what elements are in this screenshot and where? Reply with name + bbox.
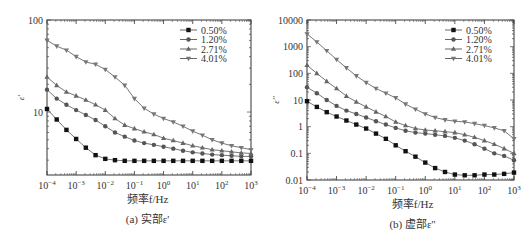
data-marker-square-icon	[113, 158, 117, 162]
data-marker-circle-icon	[413, 130, 417, 134]
legend: 0.50%1.20%2.71%4.01%	[180, 25, 227, 65]
data-marker-circle-icon	[132, 138, 136, 142]
y-axis-label: ε''	[271, 95, 281, 103]
data-marker-square-icon	[463, 173, 467, 177]
data-marker-square-icon	[423, 160, 427, 164]
data-marker-triangle-up-icon	[354, 99, 359, 104]
data-marker-triangle-up-icon	[334, 86, 339, 91]
data-marker-square-icon	[171, 159, 175, 163]
chart-real-permittivity: 10−410−310−210−110010110210310100ε'0.50%…	[0, 0, 265, 243]
data-marker-circle-icon	[74, 108, 78, 112]
data-marker-square-icon	[200, 159, 204, 163]
data-marker-square-icon	[443, 170, 447, 174]
data-marker-circle-icon	[239, 154, 243, 158]
legend: 0.50%1.20%2.71%4.01%	[445, 25, 492, 65]
data-marker-circle-icon	[482, 146, 486, 150]
data-marker-circle-icon	[210, 152, 214, 156]
data-marker-square-icon	[364, 126, 368, 130]
data-marker-circle-icon	[472, 142, 476, 146]
chart-panel-b: 10−410−310−210−11001011021030.010.111010…	[265, 0, 530, 243]
data-marker-square-icon	[229, 159, 233, 163]
data-marker-triangle-up-icon	[324, 79, 329, 84]
y-axis-label: ε'	[16, 94, 26, 101]
data-marker-triangle-down-icon	[344, 66, 349, 71]
caption-a: (a) 实部ε'	[15, 210, 280, 226]
data-marker-circle-icon	[384, 122, 388, 126]
y-tick-label: 0.1	[291, 148, 304, 159]
data-marker-square-icon	[482, 172, 486, 176]
data-marker-square-icon	[181, 159, 185, 163]
series-2-71pct	[304, 63, 516, 156]
data-marker-square-icon	[512, 170, 516, 174]
data-marker-square-icon	[472, 173, 476, 177]
caption-b: (b) 虚部ε''	[280, 215, 530, 231]
data-marker-square-icon	[123, 159, 127, 163]
x-axis-label-b: 频率f/Hz	[280, 195, 530, 211]
y-tick-label: 10	[33, 107, 43, 118]
data-marker-circle-icon	[512, 158, 516, 162]
y-tick-label: 100	[288, 68, 303, 79]
data-marker-triangle-up-icon	[122, 122, 127, 127]
data-marker-square-icon	[84, 145, 88, 149]
y-tick-label: 10	[293, 95, 303, 106]
data-marker-circle-icon	[354, 112, 358, 116]
data-marker-square-icon	[384, 137, 388, 141]
data-marker-square-icon	[239, 159, 243, 163]
data-marker-circle-icon	[443, 134, 447, 138]
data-marker-square-icon	[453, 172, 457, 176]
y-tick-label: 1000	[283, 41, 303, 52]
data-marker-square-icon	[210, 159, 214, 163]
data-marker-circle-icon	[344, 108, 348, 112]
data-marker-triangle-down-icon	[64, 48, 69, 53]
y-tick-label: 0.01	[286, 175, 304, 186]
data-marker-circle-icon	[325, 98, 329, 102]
data-marker-square-icon	[433, 166, 437, 170]
data-marker-triangle-down-icon	[186, 57, 191, 62]
y-tick-label: 10000	[278, 15, 303, 26]
data-marker-circle-icon	[191, 150, 195, 154]
data-marker-circle-icon	[84, 113, 88, 117]
data-marker-square-icon	[191, 159, 195, 163]
data-marker-square-icon	[374, 131, 378, 135]
data-marker-circle-icon	[171, 146, 175, 150]
data-marker-triangle-down-icon	[44, 39, 49, 44]
data-marker-circle-icon	[453, 136, 457, 140]
data-marker-square-icon	[186, 28, 190, 32]
data-marker-circle-icon	[142, 141, 146, 145]
data-marker-square-icon	[161, 159, 165, 163]
chart-panel-a: 10−410−310−210−110010110210310100ε'0.50%…	[0, 0, 265, 243]
legend-label: 4.01%	[466, 53, 492, 64]
data-marker-circle-icon	[502, 154, 506, 158]
data-marker-triangle-up-icon	[186, 46, 191, 51]
data-marker-circle-icon	[186, 37, 190, 41]
data-marker-square-icon	[413, 154, 417, 158]
data-marker-square-icon	[152, 159, 156, 163]
data-marker-circle-icon	[423, 131, 427, 135]
data-marker-triangle-down-icon	[502, 129, 507, 134]
data-marker-circle-icon	[305, 85, 309, 89]
series-1-20pct	[45, 87, 253, 158]
data-marker-triangle-down-icon	[393, 96, 398, 101]
data-marker-circle-icon	[229, 154, 233, 158]
legend-label: 4.01%	[201, 53, 227, 64]
data-marker-circle-icon	[394, 126, 398, 130]
data-marker-circle-icon	[161, 145, 165, 149]
data-marker-square-icon	[492, 172, 496, 176]
data-marker-circle-icon	[123, 134, 127, 138]
data-marker-circle-icon	[45, 87, 49, 91]
data-marker-triangle-up-icon	[314, 71, 319, 76]
data-marker-circle-icon	[463, 138, 467, 142]
data-marker-triangle-up-icon	[64, 89, 69, 94]
data-marker-circle-icon	[103, 124, 107, 128]
data-marker-square-icon	[334, 114, 338, 118]
data-marker-square-icon	[93, 153, 97, 157]
data-marker-triangle-up-icon	[304, 63, 309, 68]
data-marker-square-icon	[103, 157, 107, 161]
x-axis-label-a: 频率f/Hz	[15, 190, 280, 206]
data-marker-circle-icon	[492, 151, 496, 155]
data-marker-square-icon	[74, 137, 78, 141]
data-marker-square-icon	[344, 118, 348, 122]
data-marker-circle-icon	[433, 132, 437, 136]
data-marker-square-icon	[502, 172, 506, 176]
y-tick-label: 100	[28, 15, 43, 26]
